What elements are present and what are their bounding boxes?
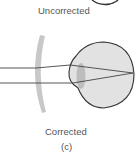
uncorrected-label: Uncorrected — [38, 5, 90, 16]
uncorrected-eye-outline — [92, 0, 118, 5]
corrected-label: Corrected — [45, 126, 87, 137]
figure-caption: (c) — [61, 141, 72, 152]
concave-lens-icon — [35, 35, 46, 113]
